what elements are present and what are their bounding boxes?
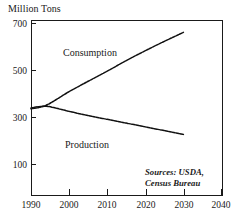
x-tick-label-2040: 2040 bbox=[212, 200, 231, 210]
y-axis-ticks bbox=[31, 24, 36, 165]
y-tick-label-100: 100 bbox=[13, 160, 28, 170]
x-tick-label-1990: 1990 bbox=[22, 200, 41, 210]
y-axis-tick-labels: 700 500 300 100 bbox=[13, 19, 28, 170]
plot-area: 700 500 300 100 1990 2000 2010 2020 2030… bbox=[0, 0, 240, 222]
x-tick-label-2010: 2010 bbox=[98, 200, 117, 210]
y-tick-label-700: 700 bbox=[13, 19, 28, 29]
consumption-production-chart: Million Tons 700 500 300 100 bbox=[0, 0, 240, 222]
production-series-label: Production bbox=[65, 139, 109, 150]
x-tick-label-2020: 2020 bbox=[137, 200, 156, 210]
x-axis-tick-labels: 1990 2000 2010 2020 2030 2040 bbox=[22, 200, 231, 210]
source-note-line-1: Sources: USDA, bbox=[145, 167, 204, 177]
consumption-series-label: Consumption bbox=[63, 47, 117, 58]
y-tick-label-300: 300 bbox=[13, 113, 28, 123]
x-tick-label-2030: 2030 bbox=[175, 200, 194, 210]
production-line bbox=[31, 106, 183, 134]
x-tick-label-2000: 2000 bbox=[60, 200, 79, 210]
source-note-line-2: Census Bureau bbox=[145, 178, 200, 188]
x-axis-ticks bbox=[32, 189, 222, 195]
consumption-line bbox=[31, 32, 183, 108]
y-tick-label-500: 500 bbox=[13, 66, 28, 76]
